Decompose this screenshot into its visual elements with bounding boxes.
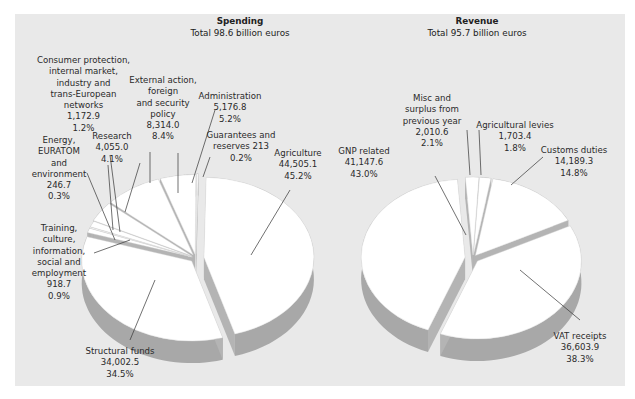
label-vat-receipts: VAT receipts 36,603.9 38.3%	[548, 331, 612, 365]
revenue-subtitle: Total 95.7 billion euros	[427, 28, 526, 38]
revenue-title: Revenue	[387, 16, 567, 28]
label-agriculture: Agriculture 44,505.1 45.2%	[268, 148, 328, 182]
label-consumer-protection: Consumer protection, internal market, in…	[36, 55, 131, 134]
label-misc-surplus: Misc and surplus from previous year 2,01…	[400, 93, 464, 149]
label-training: Training, culture, information, social a…	[28, 223, 90, 302]
spending-pie	[82, 174, 314, 363]
pie-slice	[196, 174, 198, 254]
spending-subtitle: Total 98.6 billion euros	[190, 28, 289, 38]
label-administration: Administration 5,176.8 5.2%	[194, 91, 266, 125]
revenue-title-block: Revenue Total 95.7 billion euros	[387, 16, 567, 39]
label-research: Research 4,055.0 4.1%	[88, 131, 136, 165]
label-energy: Energy, EURATOM and environment 246.7 0.…	[28, 135, 90, 203]
spending-title-block: Spending Total 98.6 billion euros	[150, 16, 330, 39]
spending-title: Spending	[150, 16, 330, 28]
label-structural-funds: Structural funds 34,002.5 34.5%	[80, 346, 160, 380]
label-gnp-related: GNP related 41,147.6 43.0%	[332, 146, 396, 180]
label-guarantees: Guarantees and reserves 213 0.2%	[205, 130, 277, 164]
label-customs-duties: Customs duties 14,189.3 14.8%	[534, 145, 614, 179]
